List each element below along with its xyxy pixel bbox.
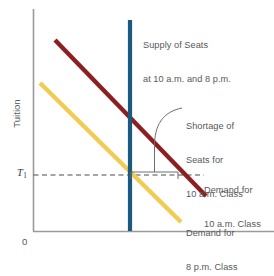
- origin-label: 0: [22, 236, 27, 247]
- tuition-tick-letter: T: [17, 167, 23, 178]
- shortage-leader-line: [155, 108, 183, 146]
- demand-8pm-annotation: Demand for 8 p.m. Class: [186, 206, 238, 276]
- y-axis-label: Tuition: [11, 84, 22, 144]
- supply-annotation: Supply of Seats at 10 a.m. and 8 p.m.: [143, 18, 231, 108]
- supply-annotation-line1: Supply of Seats: [143, 40, 231, 51]
- demand-10am-annotation-line1: Demand for: [204, 185, 261, 196]
- supply-annotation-line2: at 10 a.m. and 8 p.m.: [143, 74, 231, 85]
- demand-8pm-annotation-line2: 8 p.m. Class: [186, 262, 238, 273]
- tuition-tick-label: T1: [17, 167, 26, 178]
- tuition-tick-subscript: 1: [23, 172, 27, 180]
- shortage-annotation-line1: Shortage of: [186, 121, 243, 132]
- demand-8pm-annotation-line1: Demand for: [186, 228, 238, 239]
